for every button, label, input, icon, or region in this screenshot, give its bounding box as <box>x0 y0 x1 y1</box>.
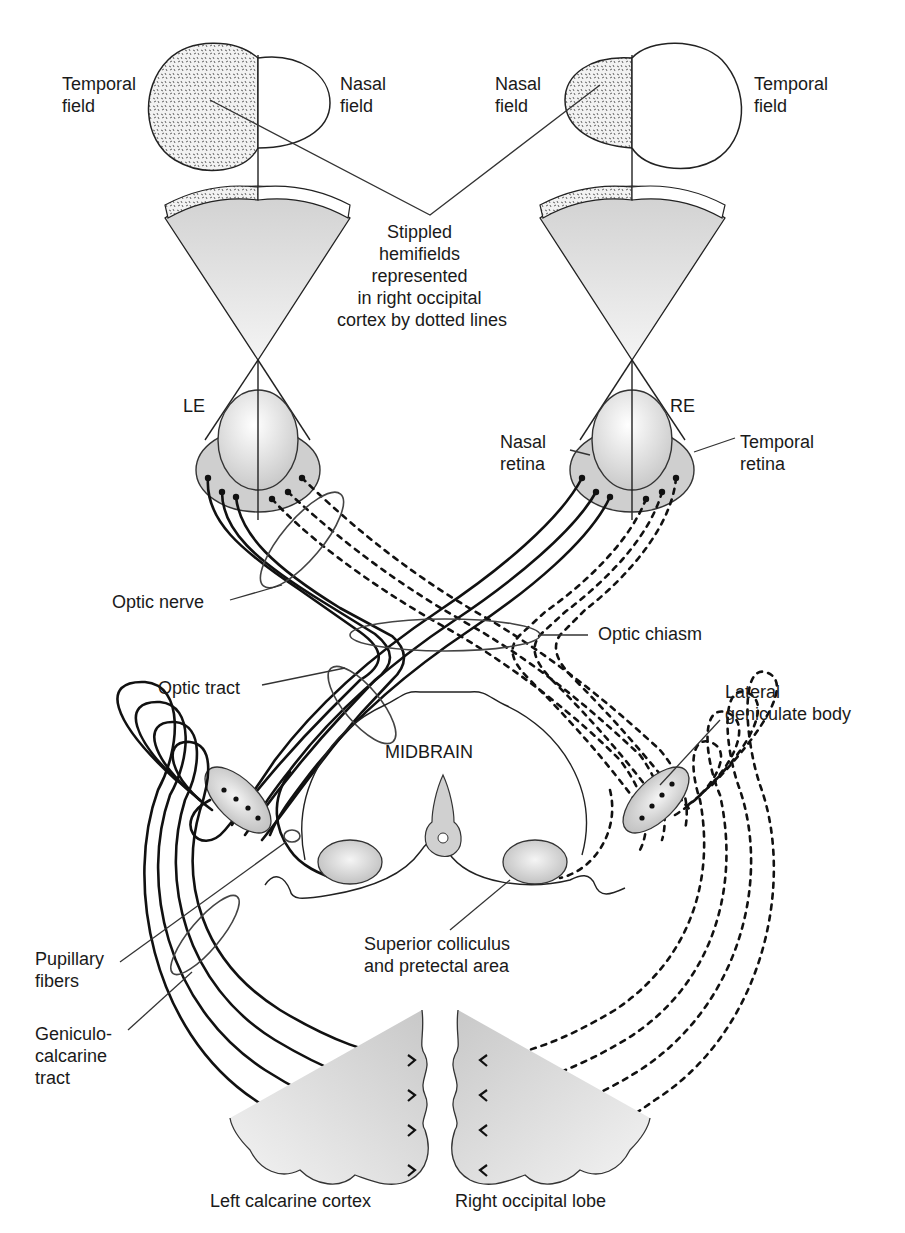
right-eye-uncrossed-fibers <box>513 478 690 820</box>
optic-nerve-leader <box>230 585 282 600</box>
label-optic-nerve: Optic nerve <box>112 592 204 612</box>
right-temporal-hemifield <box>632 43 741 168</box>
label-superior-colliculus: Superior colliculusand pretectal area <box>364 934 510 976</box>
label-left-nasal-field: Nasalfield <box>340 74 386 116</box>
optic-tract-leader <box>262 668 345 685</box>
left-superior-colliculus <box>318 840 382 884</box>
temporal-retina-leader <box>694 438 735 452</box>
label-temporal-retina: Temporalretina <box>740 432 814 474</box>
label-optic-chiasm: Optic chiasm <box>598 624 702 644</box>
label-nasal-retina: Nasalretina <box>500 432 546 474</box>
label-lateral-geniculate-body: Lateralgeniculate body <box>725 682 851 724</box>
label-pupillary-fibers: Pupillaryfibers <box>35 949 104 991</box>
superior-colliculus-leader <box>450 880 510 930</box>
lateral-geniculate-leader <box>660 720 720 785</box>
label-right-temporal-field: Temporalfield <box>754 74 828 116</box>
left-eye <box>196 390 320 512</box>
right-eye-crossed-fibers <box>232 478 610 835</box>
pupillary-fibers-ring <box>284 830 300 842</box>
label-midbrain: MIDBRAIN <box>385 742 473 762</box>
visual-pathway-diagram: Temporalfield Nasalfield Nasalfield Temp… <box>0 0 905 1233</box>
label-optic-tract: Optic tract <box>158 678 240 698</box>
label-geniculocalcarine-tract: Geniculo-calcarinetract <box>35 1024 112 1088</box>
label-left-eye: LE <box>183 396 205 416</box>
left-nasal-hemifield <box>258 57 330 148</box>
left-eye-crossed-fibers <box>272 478 687 850</box>
label-left-temporal-field: Temporalfield <box>62 74 136 116</box>
label-right-nasal-field: Nasalfield <box>495 74 541 116</box>
diagram-svg: Temporalfield Nasalfield Nasalfield Temp… <box>0 0 905 1233</box>
cerebral-aqueduct <box>425 775 461 857</box>
label-left-calcarine-cortex: Left calcarine cortex <box>210 1191 371 1211</box>
right-nasal-hemifield-stippled <box>565 58 632 148</box>
label-stippled-note: Stippled hemifields represented in right… <box>337 222 507 330</box>
left-temporal-hemifield-stippled <box>149 43 258 170</box>
label-right-eye: RE <box>670 396 695 416</box>
label-right-occipital-lobe: Right occipital lobe <box>455 1191 606 1211</box>
right-superior-colliculus <box>503 840 567 884</box>
